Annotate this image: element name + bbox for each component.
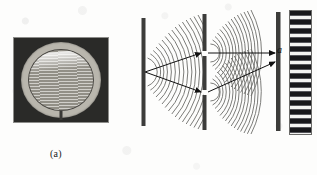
interference-photograph <box>14 38 108 122</box>
figure-double-slit: (a) <box>0 0 317 175</box>
interference-pattern-strip <box>289 10 312 135</box>
photo-disc <box>28 49 94 111</box>
fringe-bands <box>290 11 311 134</box>
panel-b: a b c d P (b) <box>130 0 317 175</box>
panel-a: (a) <box>0 0 140 175</box>
screen-barrier-P <box>276 12 281 131</box>
label-point-a: a <box>277 44 282 55</box>
double-slit-barrier-bottom <box>203 95 207 130</box>
caption-a: (a) <box>50 148 62 159</box>
photo-mount-stem <box>60 111 63 120</box>
first-barrier <box>142 18 146 126</box>
double-slit-barrier-middle <box>203 56 207 90</box>
double-slit-barrier-top <box>203 14 207 51</box>
